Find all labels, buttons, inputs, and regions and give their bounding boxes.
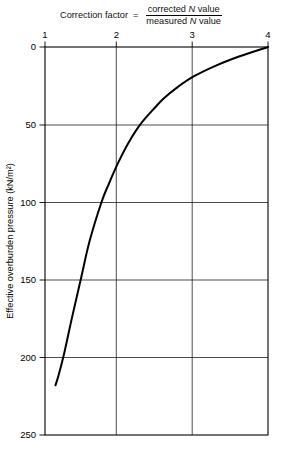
ytick-label-0: 0 [31, 41, 36, 52]
correction-factor-chart: 1 2 3 4 0 50 100 150 200 250 E [0, 0, 283, 453]
y-axis-ticks [40, 47, 46, 435]
xtick-label-2: 2 [114, 29, 119, 40]
y-axis-tick-labels: 0 50 100 150 200 250 [20, 41, 36, 440]
ytick-label-150: 150 [20, 274, 36, 285]
x-axis-ticks [45, 42, 268, 48]
ytick-label-100: 100 [20, 197, 36, 208]
plot-area-wrapper: 1 2 3 4 0 50 100 150 200 250 E [0, 0, 283, 453]
x-axis-tick-labels: 1 2 3 4 [42, 29, 270, 40]
ytick-label-200: 200 [20, 352, 36, 363]
xtick-label-4: 4 [265, 29, 270, 40]
ytick-label-50: 50 [25, 119, 36, 130]
xtick-label-1: 1 [42, 29, 47, 40]
xtick-label-3: 3 [190, 29, 195, 40]
figure: Correction factor = corrected N value me… [0, 0, 283, 453]
ytick-label-250: 250 [20, 429, 36, 440]
data-series-line [55, 47, 268, 385]
y-axis-title: Effective overburden pressure (kN/m²) [5, 163, 15, 319]
